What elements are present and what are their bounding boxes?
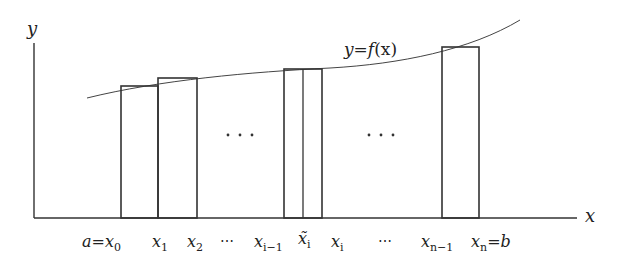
tick-var: x — [187, 232, 196, 251]
curve-label-lhs: y — [344, 39, 354, 59]
tick-label-x2: x2 — [187, 234, 203, 253]
curve-label-arg: (x) — [374, 39, 397, 59]
tick-sub: 2 — [196, 241, 203, 254]
rectangle-1 — [121, 86, 158, 218]
tick-label-x-i: xi — [331, 234, 344, 253]
tick-label-dots-right: ⋯ — [378, 234, 392, 248]
tick-eq: = — [487, 232, 500, 251]
tick-var: x — [471, 232, 480, 251]
tick-label-x-nm1: xn−1 — [421, 234, 453, 253]
tick-var: x̃ — [298, 229, 307, 248]
tick-sub: 0 — [114, 241, 121, 254]
tick-var: x — [254, 232, 263, 251]
tick-label-xn-b: xn=b — [471, 234, 511, 253]
ellipsis-left — [227, 134, 254, 137]
tick-a: a — [82, 232, 92, 251]
curve-label-eq: = — [354, 39, 368, 59]
tick-var: x — [421, 232, 430, 251]
curve-label: y=f(x) — [344, 41, 397, 58]
rectangle-n — [442, 47, 479, 218]
tick-sub: i — [307, 238, 311, 251]
tick-var: x — [105, 232, 114, 251]
y-axis-label: y — [27, 20, 37, 38]
ellipsis-right — [368, 134, 395, 137]
tick-sub: i — [340, 241, 344, 254]
tick-sub: n−1 — [430, 241, 453, 254]
tick-eq: = — [92, 232, 105, 251]
tick-label-x-im1: xi−1 — [254, 234, 283, 253]
x-axis-label: x — [585, 207, 595, 225]
tick-sub: 1 — [161, 241, 168, 254]
tick-b: b — [501, 232, 511, 251]
tick-label-x-tilde-i: x̃i — [298, 231, 311, 250]
tick-label-dots-left: ⋯ — [220, 234, 234, 248]
riemann-sum-diagram — [0, 0, 626, 265]
tick-sub: i−1 — [263, 241, 283, 254]
rectangle-2 — [158, 78, 197, 218]
tick-label-x1: x1 — [152, 234, 168, 253]
tick-label-a-x0: a=x0 — [82, 234, 121, 253]
tick-var: x — [331, 232, 340, 251]
tick-var: x — [152, 232, 161, 251]
